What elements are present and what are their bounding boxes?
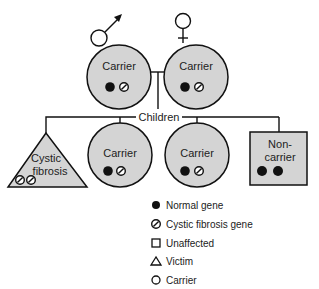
svg-text:Unaffected: Unaffected bbox=[166, 238, 214, 249]
normal-gene-icon bbox=[180, 82, 190, 92]
father-node: Carrier bbox=[87, 45, 151, 109]
svg-text:Carrier: Carrier bbox=[103, 147, 137, 159]
child-victim-node: Cystic fibrosis bbox=[8, 133, 87, 187]
svg-text:Cystic fibrosis gene: Cystic fibrosis gene bbox=[166, 219, 253, 230]
normal-gene-icon bbox=[103, 166, 113, 176]
cf-gene-icon bbox=[195, 83, 204, 92]
svg-text:Cystic: Cystic bbox=[31, 152, 61, 164]
svg-text:Normal gene: Normal gene bbox=[166, 200, 224, 211]
normal-gene-icon bbox=[105, 82, 115, 92]
child-carrier-node: Carrier bbox=[165, 123, 229, 187]
triangle-icon bbox=[151, 257, 161, 265]
svg-text:fibrosis: fibrosis bbox=[33, 165, 68, 177]
svg-text:carrier: carrier bbox=[264, 151, 296, 163]
male-symbol-icon bbox=[91, 14, 122, 46]
normal-gene-icon bbox=[273, 166, 283, 176]
normal-gene-icon bbox=[180, 166, 190, 176]
normal-gene-icon bbox=[257, 166, 267, 176]
pedigree-lines bbox=[46, 72, 279, 133]
circle-icon bbox=[152, 276, 160, 284]
female-symbol-icon bbox=[176, 14, 191, 44]
slashed-circle-icon bbox=[152, 220, 161, 229]
square-icon bbox=[152, 239, 160, 247]
cf-gene-icon bbox=[117, 167, 126, 176]
children-label: Children bbox=[139, 111, 180, 123]
pedigree-diagram: Carrier Carrier Children Cystic fibrosis… bbox=[0, 0, 319, 289]
mother-label: Carrier bbox=[179, 60, 213, 72]
svg-text:Non-: Non- bbox=[268, 138, 292, 150]
cf-gene-icon bbox=[120, 83, 129, 92]
cf-gene-icon bbox=[16, 176, 25, 185]
filled-circle-icon bbox=[152, 201, 160, 209]
father-label: Carrier bbox=[102, 60, 136, 72]
mother-node: Carrier bbox=[164, 45, 228, 109]
svg-text:Victim: Victim bbox=[166, 256, 193, 267]
child-noncarrier-node: Non- carrier bbox=[250, 132, 307, 185]
svg-text:Carrier: Carrier bbox=[166, 275, 197, 286]
svg-text:Carrier: Carrier bbox=[180, 147, 214, 159]
child-carrier-node: Carrier bbox=[88, 123, 152, 187]
legend: Normal gene Cystic fibrosis gene Unaffec… bbox=[151, 200, 253, 286]
cf-gene-icon bbox=[195, 167, 204, 176]
cf-gene-icon bbox=[27, 176, 36, 185]
